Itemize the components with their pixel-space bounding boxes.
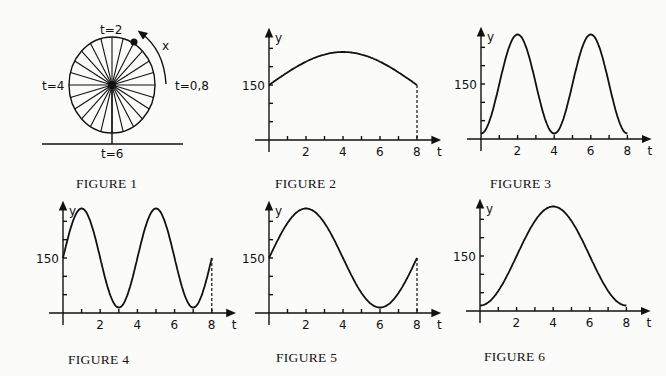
figure-caption: FIGURE 4 <box>68 352 129 367</box>
figure-1-caption: FIGURE 1 <box>76 176 137 191</box>
figure-6-graph: 2468ty150FIGURE 6 <box>453 202 651 364</box>
x-axis-label: t <box>437 145 442 159</box>
figure-caption: FIGURE 6 <box>484 349 545 364</box>
x-tick-label: 4 <box>549 316 557 330</box>
y-tick-label-150: 150 <box>36 252 59 266</box>
x-tick-label: 6 <box>586 316 594 330</box>
curve <box>63 209 212 308</box>
curve <box>481 35 627 134</box>
x-tick-label: 6 <box>376 318 384 332</box>
y-axis-label: y <box>486 202 493 216</box>
y-axis-label: y <box>487 30 494 44</box>
label-t4: t=4 <box>42 79 64 93</box>
x-axis-label: t <box>647 144 652 158</box>
x-tick-label: 8 <box>208 318 216 332</box>
figure-5-graph: 2468ty150FIGURE 5 <box>242 204 442 365</box>
x-tick-label: 2 <box>513 316 521 330</box>
label-t2: t=2 <box>100 23 122 37</box>
x-tick-label: 4 <box>133 318 141 332</box>
x-tick-label: 8 <box>413 145 421 159</box>
x-tick-label: 8 <box>413 318 421 332</box>
x-tick-label: 4 <box>339 145 347 159</box>
figure-caption: FIGURE 2 <box>275 176 336 191</box>
y-axis-label: y <box>275 204 282 218</box>
x-tick-label: 6 <box>587 144 595 158</box>
label-t6: t=6 <box>101 147 123 161</box>
x-axis-label: t <box>232 318 237 332</box>
curve <box>480 207 626 306</box>
x-axis-label: t <box>437 318 442 332</box>
x-tick-label: 4 <box>339 318 347 332</box>
y-tick-label-150: 150 <box>453 250 476 264</box>
curve <box>269 209 417 308</box>
x-tick-label: 8 <box>623 144 631 158</box>
figure-1-wheel: t=2 t=4 t=0,8 t=6 x FIGURE 1 <box>42 23 209 191</box>
y-tick-label-150: 150 <box>454 78 477 92</box>
x-tick-label: 2 <box>96 318 104 332</box>
figure-caption: FIGURE 3 <box>490 176 551 191</box>
figure-2-graph: 2468ty150FIGURE 2 <box>242 31 442 191</box>
figure-caption: FIGURE 5 <box>276 350 337 365</box>
x-axis-label: t <box>646 316 651 330</box>
x-tick-label: 2 <box>514 144 522 158</box>
x-tick-label: 6 <box>171 318 179 332</box>
y-tick-label-150: 150 <box>242 79 265 93</box>
y-tick-label-150: 150 <box>242 252 265 266</box>
x-tick-label: 6 <box>376 145 384 159</box>
x-tick-label: 4 <box>550 144 558 158</box>
label-t0-8: t=0,8 <box>175 79 209 93</box>
y-axis-label: y <box>275 31 282 45</box>
x-tick-label: 8 <box>622 316 630 330</box>
figure-3-graph: 2468ty150FIGURE 3 <box>454 30 652 191</box>
x-tick-label: 2 <box>302 318 310 332</box>
label-x: x <box>162 39 169 53</box>
figure-4-graph: 2468ty150FIGURE 4 <box>36 204 237 367</box>
curve <box>269 52 417 85</box>
rider-dot <box>131 39 138 46</box>
x-tick-label: 2 <box>302 145 310 159</box>
